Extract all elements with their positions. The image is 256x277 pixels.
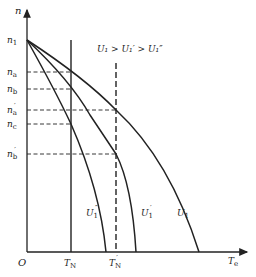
y-axis-label: n	[15, 5, 21, 16]
tick-nb: nb	[7, 84, 18, 96]
origin-label: O	[18, 257, 26, 268]
tick-TN-prime: TN′	[109, 254, 121, 270]
x-axis-label: Te	[228, 256, 238, 268]
tick-TN: TN	[64, 258, 76, 270]
characteristic-diagram: n n1 na nb na′ nc nb′ O TN TN′ Te U1″ U1…	[0, 0, 256, 277]
curve-label-U1-double-prime: U1″	[86, 204, 98, 220]
curve-label-U1-prime: U1′	[141, 204, 153, 220]
diagram-canvas: n n1 na nb na′ nc nb′ O TN TN′ Te U1″ U1…	[0, 0, 256, 277]
tick-nc: nc	[7, 119, 17, 131]
tick-na-prime: na′	[7, 102, 17, 117]
curve-label-U1: U1	[177, 208, 189, 220]
tick-na: na	[7, 67, 17, 79]
tick-nb-prime: nb′	[7, 146, 18, 161]
tick-n1: n1	[7, 35, 17, 47]
curve-U1	[27, 40, 199, 252]
condition-label: U₁ > U₁′ > U₁″	[97, 44, 163, 54]
